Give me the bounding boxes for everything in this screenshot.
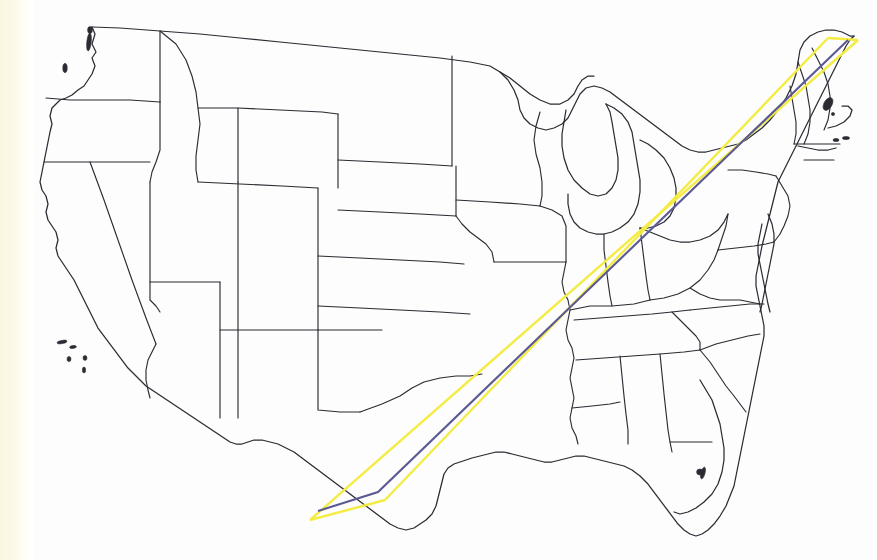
border-ks-ok [318,306,470,314]
border-wy-co [198,182,318,188]
center-line-of-totality [318,40,848,511]
border-il-in-ky [570,300,650,310]
border-nv-ut-az [150,182,160,312]
border-id-wy [198,108,238,182]
marthas-vineyard-island [833,138,839,141]
maine-island-small [831,112,834,115]
border-ok-tx [360,374,482,412]
border-al-ga [660,354,672,452]
border-ky-tn [574,310,690,320]
channel-island-5 [82,367,85,373]
border-tn-ms-al-ga [576,350,700,360]
border-ar-la [572,402,620,408]
cape-cod [828,106,852,128]
eclipse-path-group [310,38,858,520]
border-nd-sd [338,160,452,166]
border-mn-ia [456,200,540,206]
border-ga-sc [700,350,746,412]
northeast-closure-line [828,38,858,40]
border-oh-pa [718,214,728,250]
border-pa-md-nj [718,242,774,250]
tampa-bay-island [697,469,704,475]
border-oh-wv-pa [650,250,718,300]
us-map-svg [0,0,877,560]
channel-island-4 [83,356,87,361]
border-nc-va [690,304,764,310]
san-juan-island [88,27,93,34]
border-va-wv-md [690,288,760,304]
border-pa-ny [728,170,776,176]
border-wi-ia-il [540,206,566,262]
border-nc-tn [672,312,700,350]
border-ca-nv [90,162,156,344]
border-sc-nc [700,334,760,350]
channel-island-1 [57,340,67,345]
border-ne-ks [318,256,464,264]
lake-michigan-shore [562,104,618,196]
border-or-id [150,102,160,182]
nantucket-island [842,136,849,139]
lake-superior-shore [500,72,594,104]
florida-peninsula [674,380,724,514]
border-id-mt [160,31,200,182]
border-nm-tx [318,330,360,412]
puget-sound-island [86,33,92,51]
maine-coastal-islands [821,96,835,112]
border-ne-ia-mo [456,216,494,262]
border-ms-al [620,356,628,444]
northern-limit-line [310,40,858,520]
coastal-island-or [63,63,67,72]
channel-island-2 [69,345,76,349]
border-vt-nh [798,62,810,144]
border-il-mo-mississippi [562,262,578,444]
border-sd-ne [338,210,456,216]
border-mt-wy [238,108,338,114]
michigan-lower-peninsula [568,104,640,234]
eclipse-path-map: Total Solar Eclipse Path Across the Cont… [0,0,877,560]
channel-island-3 [67,356,71,361]
us-outline-group [40,27,854,536]
long-island [798,146,836,150]
canada-border [92,27,854,152]
